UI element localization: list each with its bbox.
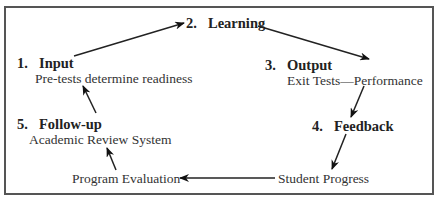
node-title: Follow-up	[39, 116, 102, 132]
node-output: 3.Output Exit Tests—Performance	[265, 57, 423, 89]
node-number: 2.	[186, 15, 208, 31]
node-input: 1.Input Pre-tests determine readiness	[17, 55, 192, 87]
node-number: 5.	[17, 116, 39, 132]
node-subtitle: Academic Review System	[29, 132, 171, 148]
node-number: 1.	[17, 55, 39, 71]
node-number: 3.	[265, 57, 287, 73]
node-subtitle: Exit Tests—Performance	[287, 73, 423, 89]
arrow-learning-to-output	[258, 26, 369, 59]
node-subtitle: Pre-tests determine readiness	[35, 71, 192, 87]
node-learning: 2.Learning	[186, 15, 265, 31]
node-title: Learning	[208, 15, 265, 31]
node-title: Output	[287, 57, 332, 73]
node-title: Input	[39, 55, 74, 71]
node-program-evaluation: Program Evaluation	[72, 171, 180, 187]
arrow-evaluation-to-followup	[107, 148, 116, 170]
node-student-progress: Student Progress	[278, 171, 369, 187]
node-title: Feedback	[334, 118, 394, 134]
arrow-output-to-feedback	[351, 86, 364, 117]
arrow-feedback-to-progress	[332, 134, 346, 169]
node-number: 4.	[312, 118, 334, 134]
node-follow-up: 5.Follow-up Academic Review System	[17, 116, 171, 148]
node-feedback: 4.Feedback	[312, 118, 394, 134]
arrow-input-to-learning	[74, 23, 184, 56]
arrow-followup-to-input	[83, 86, 96, 113]
